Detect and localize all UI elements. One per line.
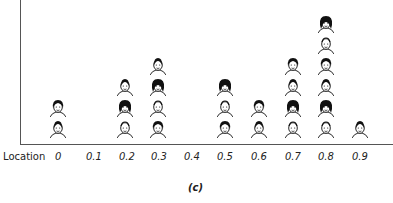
x-tick-label: 0.9 xyxy=(352,151,368,162)
person-face-icon xyxy=(285,57,301,75)
x-tick-label: 0.8 xyxy=(318,151,334,162)
person-face-icon xyxy=(117,99,133,117)
person-face-icon xyxy=(352,120,368,138)
person-face-icon xyxy=(217,99,233,117)
x-tick-label: 0.2 xyxy=(119,151,135,162)
x-tick-label: 0.5 xyxy=(217,151,233,162)
y-axis-line xyxy=(20,0,21,145)
person-face-icon xyxy=(217,78,233,96)
x-tick-label: 0 xyxy=(55,151,61,162)
x-tick-label: 0.3 xyxy=(151,151,167,162)
x-axis-title: Location xyxy=(3,151,45,162)
person-face-icon xyxy=(318,57,334,75)
person-face-icon xyxy=(318,120,334,138)
person-face-icon xyxy=(251,120,267,138)
person-face-icon xyxy=(117,120,133,138)
person-face-icon xyxy=(285,99,301,117)
x-tick-label: 0.4 xyxy=(184,151,200,162)
person-face-icon xyxy=(217,120,233,138)
person-face-icon xyxy=(150,99,166,117)
person-face-icon xyxy=(318,15,334,33)
person-face-icon xyxy=(285,120,301,138)
person-face-icon xyxy=(150,78,166,96)
person-face-icon xyxy=(285,78,301,96)
x-tick-label: 0.6 xyxy=(251,151,267,162)
person-face-icon xyxy=(318,78,334,96)
person-face-icon xyxy=(318,99,334,117)
person-face-icon xyxy=(50,120,66,138)
figure-caption: (c) xyxy=(188,182,203,193)
person-face-icon xyxy=(251,99,267,117)
person-face-icon xyxy=(150,120,166,138)
x-axis-line xyxy=(20,144,393,145)
person-face-icon xyxy=(117,78,133,96)
x-tick-label: 0.1 xyxy=(86,151,102,162)
person-face-icon xyxy=(50,99,66,117)
person-face-icon xyxy=(150,57,166,75)
x-tick-label: 0.7 xyxy=(285,151,301,162)
person-face-icon xyxy=(318,36,334,54)
